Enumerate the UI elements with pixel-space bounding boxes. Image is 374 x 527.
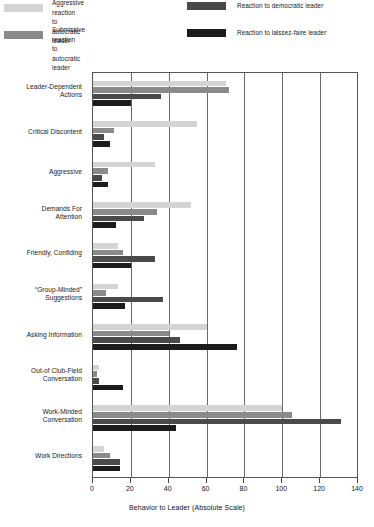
x-axis-tick <box>357 478 358 483</box>
x-axis-tick <box>281 478 282 483</box>
bar <box>93 365 99 371</box>
bar <box>93 141 110 147</box>
bar <box>93 466 120 472</box>
category-label: Out-of Club-Field Conversation <box>31 367 82 384</box>
bar <box>93 128 114 134</box>
x-axis-tick <box>130 478 131 483</box>
x-axis-tick-label: 20 <box>126 485 134 492</box>
x-axis-tick-label: 140 <box>351 485 363 492</box>
legend-swatch-democratic <box>187 2 226 10</box>
x-axis-tick-label: 80 <box>240 485 248 492</box>
bar <box>93 243 118 249</box>
bar <box>93 446 104 452</box>
legend-label-laissez-faire: Reaction to laissez-faire leader <box>237 28 326 38</box>
bar <box>93 284 118 290</box>
x-axis-tick-label: 0 <box>90 485 94 492</box>
bar <box>93 182 108 188</box>
category-axis-labels: Leader-Dependent ActionsCritical Discont… <box>0 72 88 478</box>
legend-swatch-laissez-faire <box>187 29 226 37</box>
bar <box>93 209 157 215</box>
bar <box>93 222 116 228</box>
bar <box>93 405 282 411</box>
bar <box>93 371 97 377</box>
bar <box>93 337 180 343</box>
bar <box>93 385 123 391</box>
bar <box>93 250 123 256</box>
category-label: Leader-Dependent Actions <box>26 83 82 100</box>
category-label: Work Directions <box>35 452 82 461</box>
x-axis-tick-label: 60 <box>202 485 210 492</box>
bar <box>93 87 229 93</box>
bar <box>93 290 106 296</box>
bar <box>93 459 120 465</box>
bar <box>93 94 161 100</box>
x-axis-tick <box>92 478 93 483</box>
bar <box>93 303 125 309</box>
bar <box>93 297 163 303</box>
x-axis: 020406080100120140 <box>92 478 358 502</box>
bar <box>93 331 169 337</box>
x-axis-tick <box>243 478 244 483</box>
legend-swatch-aggressive-autocratic <box>4 4 43 12</box>
legend-label-democratic: Reaction to democratic leader <box>237 1 323 11</box>
x-axis-tick <box>319 478 320 483</box>
category-label: Friendly, Confiding <box>27 249 82 258</box>
bar <box>93 419 341 425</box>
bar <box>93 324 207 330</box>
category-label: “Group-Minded” Suggestions <box>35 286 82 303</box>
bar <box>93 453 110 459</box>
bar <box>93 100 131 106</box>
x-axis-tick <box>206 478 207 483</box>
bar <box>93 81 226 87</box>
x-axis-tick <box>168 478 169 483</box>
x-axis-title: Behavior to Leader (Absolute Scale) <box>0 504 374 511</box>
category-label: Work-Minded Conversation <box>42 408 82 425</box>
x-axis-tick-label: 120 <box>313 485 325 492</box>
bar <box>93 425 176 431</box>
legend-label-submissive-autocratic: Submissive reaction to autocratic leader <box>52 25 85 73</box>
bar <box>93 378 99 384</box>
bar <box>93 175 102 181</box>
bar <box>93 168 108 174</box>
chart-legend: Aggressive reaction to autocratic leader… <box>0 0 374 62</box>
x-axis-tick-label: 100 <box>275 485 287 492</box>
bar <box>93 121 197 127</box>
plot-area <box>92 72 358 478</box>
category-label: Aggressive <box>49 168 82 177</box>
bar <box>93 263 131 269</box>
bar <box>93 412 292 418</box>
x-axis-tick-label: 40 <box>164 485 172 492</box>
bar <box>93 344 237 350</box>
gridline <box>320 73 321 477</box>
bar <box>93 216 144 222</box>
bar <box>93 134 104 140</box>
category-label: Critical Discontent <box>28 128 82 137</box>
category-label: Demands For Attention <box>42 205 82 222</box>
category-label: Asking Information <box>27 331 82 340</box>
bar <box>93 202 191 208</box>
bar <box>93 256 155 262</box>
bar <box>93 162 155 168</box>
legend-swatch-submissive-autocratic <box>4 31 43 39</box>
